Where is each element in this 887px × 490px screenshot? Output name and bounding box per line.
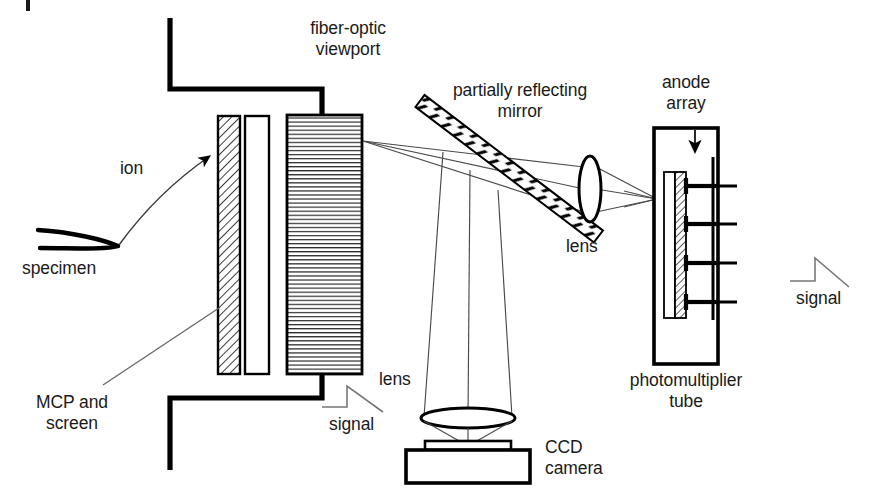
collection-lens-pmt (579, 156, 601, 222)
ccd-camera-body (406, 450, 530, 483)
mcp-plate (218, 116, 240, 374)
label-signal-right: signal (796, 288, 841, 309)
signal-waveform-right (790, 258, 849, 287)
diagram-canvas: fiber-optic viewport ion specimen MCP an… (0, 0, 887, 490)
label-lens-ccd: lens (379, 369, 411, 390)
photocathode-window (664, 172, 675, 318)
label-specimen: specimen (22, 258, 96, 279)
signal-waveform-left (322, 386, 383, 412)
phosphor-screen-plate (245, 116, 269, 374)
label-photomultiplier-tube: photomultiplier tube (612, 370, 760, 411)
vacuum-chamber-wall-lower (170, 374, 322, 470)
collection-lens-ccd (421, 408, 515, 428)
label-partially-reflecting-mirror: partially reflecting mirror (412, 80, 628, 121)
label-signal-left: signal (329, 414, 374, 435)
specimen-tip (38, 230, 118, 249)
label-fiber-optic-viewport: fiber-optic viewport (268, 18, 428, 59)
fiber-optic-viewport-block (287, 115, 362, 374)
mcp-leader-line (103, 308, 219, 385)
label-lens-pmt: lens (566, 236, 598, 257)
label-mcp-and-screen: MCP and screen (10, 392, 134, 433)
crop-artifact-mark (26, 0, 30, 11)
label-ccd-camera: CCD camera (545, 437, 603, 478)
light-ray-bundle-ccd (424, 152, 512, 417)
label-ion: ion (120, 158, 143, 179)
label-anode-array: anode array (626, 72, 746, 113)
